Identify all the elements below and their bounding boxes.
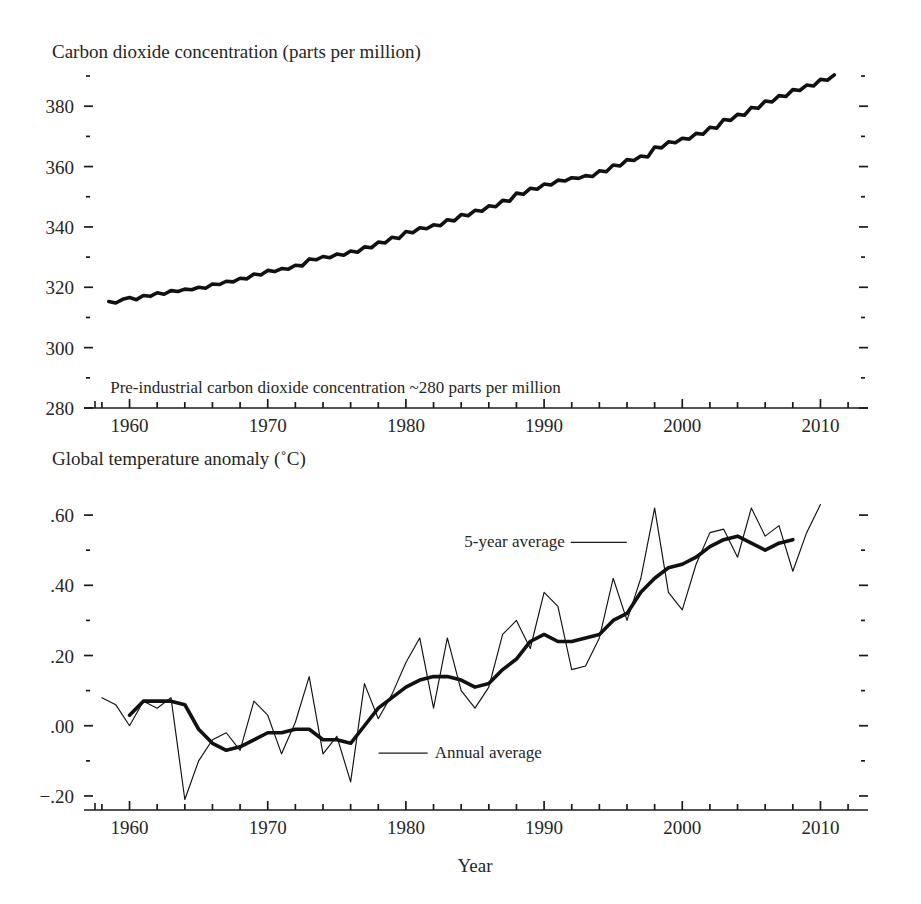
figure-canvas: Carbon dioxide concentration (parts per … bbox=[0, 0, 921, 904]
co2-panel-title: Carbon dioxide concentration (parts per … bbox=[52, 41, 421, 63]
x-tick-label: 2000 bbox=[663, 415, 701, 436]
x-tick-label: 1960 bbox=[111, 817, 149, 838]
x-tick-label: 1970 bbox=[249, 817, 287, 838]
y-tick-label: 300 bbox=[46, 338, 75, 359]
y-tick-label: 280 bbox=[46, 398, 75, 419]
series-line-5-year-average bbox=[130, 536, 793, 750]
x-tick-label: 2010 bbox=[801, 415, 839, 436]
x-tick-label: 2010 bbox=[801, 817, 839, 838]
y-tick-label: 320 bbox=[46, 277, 75, 298]
x-tick-label: 1980 bbox=[387, 415, 425, 436]
y-tick-label: .40 bbox=[50, 575, 74, 596]
y-tick-label: −.20 bbox=[40, 786, 74, 807]
y-tick-label: 340 bbox=[46, 217, 75, 238]
chart-panel-temperature: Global temperature anomaly (˚C)−.20.00.2… bbox=[40, 448, 868, 838]
preindustrial-note: Pre-industrial carbon dioxide concentrat… bbox=[110, 378, 561, 397]
x-tick-label: 1990 bbox=[525, 415, 563, 436]
x-axis-label: Year bbox=[457, 855, 493, 876]
legend-label-annual-average: Annual average bbox=[435, 743, 542, 762]
y-tick-label: .00 bbox=[50, 716, 74, 737]
series-line-mauna-loa-monthly-mean-co2 bbox=[109, 75, 834, 303]
y-tick-label: 380 bbox=[46, 96, 75, 117]
x-tick-label: 1970 bbox=[249, 415, 287, 436]
y-tick-label: 360 bbox=[46, 157, 75, 178]
x-tick-label: 2000 bbox=[663, 817, 701, 838]
y-tick-label: .60 bbox=[50, 505, 74, 526]
climate-figure: Carbon dioxide concentration (parts per … bbox=[0, 0, 921, 904]
temperature-panel-title: Global temperature anomaly (˚C) bbox=[52, 448, 306, 470]
chart-panel-co2: Carbon dioxide concentration (parts per … bbox=[46, 41, 869, 436]
legend-label-5-year-average: 5-year average bbox=[464, 532, 565, 551]
x-tick-label: 1990 bbox=[525, 817, 563, 838]
x-tick-label: 1960 bbox=[111, 415, 149, 436]
x-tick-label: 1980 bbox=[387, 817, 425, 838]
y-tick-label: .20 bbox=[50, 646, 74, 667]
